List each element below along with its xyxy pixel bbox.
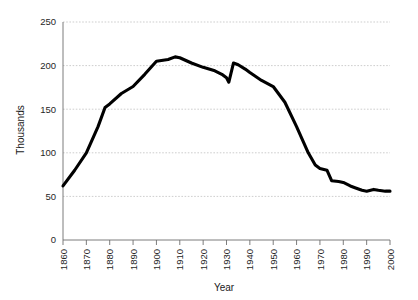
x-tick-label-1900: 1900: [151, 249, 162, 270]
x-tick-label-1970: 1970: [315, 249, 326, 270]
y-tick-label-100: 100: [40, 147, 56, 158]
chart-canvas: 050100150200250 186018701880189019001910…: [0, 0, 418, 300]
x-tick-marks-group: [63, 240, 390, 245]
y-tick-label-50: 50: [45, 191, 56, 202]
x-tick-label-1980: 1980: [338, 249, 349, 270]
x-tick-label-1890: 1890: [128, 249, 139, 270]
x-tick-label-1990: 1990: [361, 249, 372, 270]
y-tick-label-250: 250: [40, 16, 56, 27]
x-tick-label-1910: 1910: [174, 249, 185, 270]
y-axis-title: Thousands: [15, 105, 26, 154]
y-tick-labels-group: 050100150200250: [40, 16, 56, 245]
x-tick-label-1940: 1940: [244, 249, 255, 270]
x-tick-label-1920: 1920: [198, 249, 209, 270]
x-tick-label-1950: 1950: [268, 249, 279, 270]
x-tick-label-1930: 1930: [221, 249, 232, 270]
y-tick-label-150: 150: [40, 104, 56, 115]
gridlines-group: [63, 22, 390, 196]
x-tick-label-1860: 1860: [58, 249, 69, 270]
x-tick-label-2000: 2000: [385, 249, 396, 270]
y-tick-label-200: 200: [40, 60, 56, 71]
line-chart: 050100150200250 186018701880189019001910…: [0, 0, 418, 300]
axes-lines-group: [63, 22, 390, 240]
x-axis-title: Year: [214, 282, 235, 293]
y-tick-label-0: 0: [51, 234, 56, 245]
data-series-group: [63, 57, 390, 191]
x-tick-label-1880: 1880: [104, 249, 115, 270]
data-line-Thousands: [63, 57, 390, 191]
x-tick-label-1870: 1870: [81, 249, 92, 270]
x-tick-labels-group: 1860187018801890190019101920193019401950…: [58, 249, 396, 270]
x-tick-label-1960: 1960: [291, 249, 302, 270]
